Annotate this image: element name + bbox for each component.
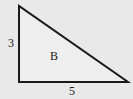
- vertical-side-label: 3: [8, 37, 14, 49]
- horizontal-side-label: 5: [69, 85, 75, 97]
- interior-label: B: [50, 50, 58, 62]
- triangle-shape: [0, 0, 133, 99]
- triangle-diagram: 3 B 5: [0, 0, 133, 99]
